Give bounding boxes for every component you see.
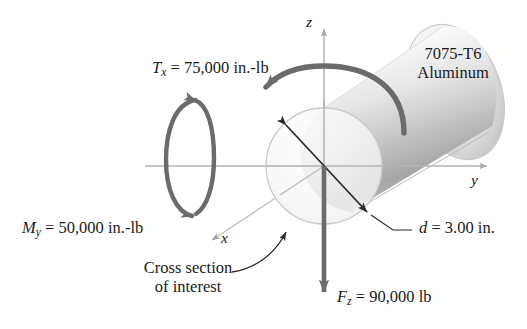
material-line-1: 7075-T6 — [398, 45, 508, 64]
torque-subscript: x — [161, 66, 166, 78]
torque-symbol: T — [152, 58, 161, 77]
cross-section-callout: Cross section of interest — [113, 258, 263, 296]
diameter-symbol: d — [419, 218, 427, 237]
material-label: 7075-T6 Aluminum — [398, 45, 508, 83]
axial-force-symbol: F — [337, 287, 347, 306]
axial-force-equals: = — [356, 287, 365, 306]
torque-label: Tx = 75,000 in.-lb — [152, 59, 269, 79]
moment-equals: = — [45, 218, 54, 237]
torque-equals: = — [170, 58, 179, 77]
axis-label-z: z — [306, 14, 312, 31]
moment-symbol: M — [22, 218, 36, 237]
diameter-equals: = — [431, 218, 440, 237]
diameter-label: d = 3.00 in. — [419, 219, 495, 237]
diameter-value: 3.00 — [445, 218, 474, 237]
axial-force-subscript: z — [347, 295, 352, 307]
torque-units: in.-lb — [233, 58, 268, 77]
diameter-leader-line — [371, 215, 412, 230]
moment-subscript: y — [36, 226, 41, 238]
axis-label-x: x — [221, 230, 228, 247]
moment-loop-path — [166, 100, 195, 216]
moment-units: in.-lb — [108, 218, 143, 237]
moment-loop — [166, 100, 214, 216]
moment-loop-path-back — [195, 100, 214, 214]
moment-value: 50,000 — [58, 218, 103, 237]
axial-force-value: 90,000 — [369, 287, 414, 306]
callout-line-1: Cross section — [113, 258, 263, 277]
axial-force-units: lb — [419, 287, 432, 306]
moment-label: My = 50,000 in.-lb — [22, 219, 143, 239]
material-line-2: Aluminum — [398, 64, 508, 83]
torque-value: 75,000 — [184, 58, 229, 77]
callout-line-2: of interest — [113, 277, 263, 296]
axial-force-label: Fz = 90,000 lb — [337, 288, 432, 308]
axis-label-y: y — [471, 172, 478, 189]
engineering-figure: Tx = 75,000 in.-lb My = 50,000 in.-lb Fz… — [0, 0, 527, 329]
diameter-units: in. — [478, 218, 495, 237]
